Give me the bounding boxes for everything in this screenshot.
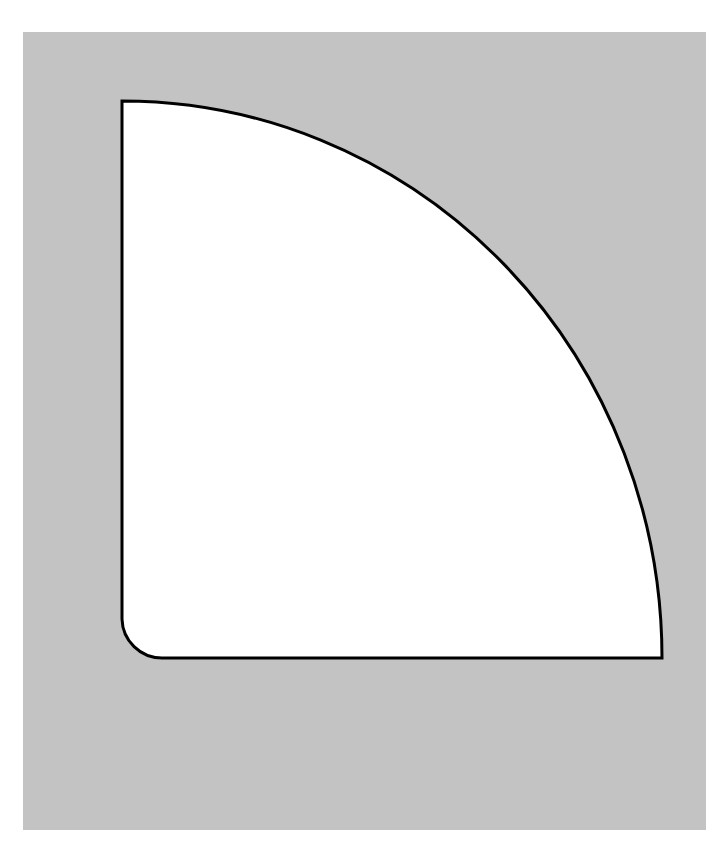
shape-diagram — [0, 0, 728, 859]
figure-canvas — [0, 0, 728, 859]
